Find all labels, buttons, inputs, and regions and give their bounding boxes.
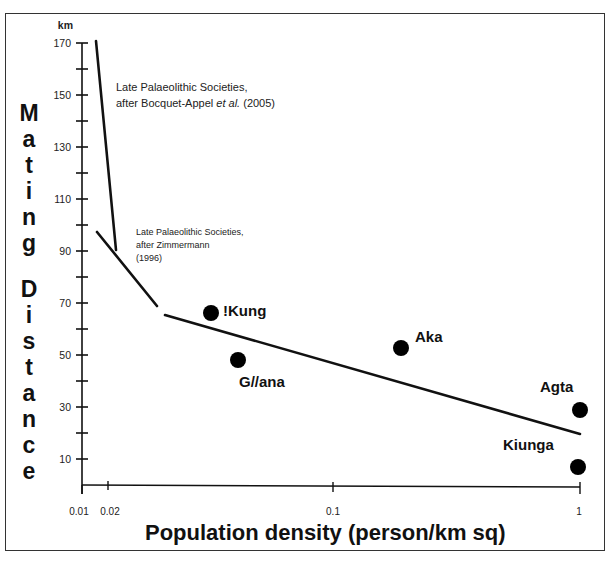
- point-agta: [572, 402, 588, 418]
- point-kung: [203, 305, 219, 321]
- point-kiunga: [570, 459, 586, 475]
- y-title-letter: D: [21, 276, 38, 302]
- x-tick-0.1: 0.1: [326, 506, 340, 517]
- y-title-letter: t: [25, 354, 33, 380]
- y-tick-50: 50: [59, 349, 71, 361]
- label-kung: !Kung: [223, 302, 266, 319]
- y-title-letter: t: [25, 152, 33, 178]
- x-tick-1: 1: [576, 506, 582, 517]
- y-tick-110: 110: [54, 193, 71, 205]
- label-kiunga: Kiunga: [503, 436, 554, 453]
- x-tick-labels: 0.01 0.02 0.1 1: [69, 506, 582, 517]
- y-title-letter: n: [22, 406, 36, 432]
- label-gana: G//ana: [239, 373, 286, 390]
- x-axis-title: Population density (person/km sq): [145, 520, 506, 546]
- point-aka: [393, 340, 409, 356]
- x-tick-0.01: 0.01: [69, 506, 89, 517]
- annotation-zimmermann-line1: Late Palaeolithic Societies,: [136, 227, 244, 237]
- annotation-bocquet-etal: et al.: [216, 97, 240, 109]
- y-title-letter: g: [22, 230, 36, 256]
- annotation-bocquet-line1: Late Palaeolithic Societies,: [116, 81, 247, 93]
- y-tick-90: 90: [59, 245, 71, 257]
- y-title-letter: i: [26, 302, 32, 328]
- annotation-bocquet-line2: after Bocquet-Appel et al. (2005): [116, 97, 275, 109]
- y-axis: [76, 43, 88, 494]
- y-unit-label: km: [58, 19, 73, 31]
- x-axis: [82, 481, 580, 494]
- annotation-zimmermann-line3: (1996): [136, 253, 162, 263]
- bocquet-appel-line: [96, 41, 116, 250]
- y-tick-130: 130: [53, 141, 71, 153]
- annotation-zimmermann: Late Palaeolithic Societies, after Zimme…: [136, 227, 244, 263]
- y-tick-150: 150: [53, 89, 71, 101]
- label-aka: Aka: [415, 328, 443, 345]
- annotation-bocquet: Late Palaeolithic Societies, after Bocqu…: [116, 81, 275, 109]
- annotation-zimmermann-line2: after Zimmermann: [136, 240, 210, 250]
- y-title-letter: a: [23, 380, 36, 406]
- annotation-bocquet-year: (2005): [240, 97, 275, 109]
- annotation-bocquet-author: after Bocquet-Appel: [116, 97, 216, 109]
- trend-line: [165, 315, 580, 434]
- y-tick-70: 70: [59, 297, 71, 309]
- y-title-letter: i: [26, 178, 32, 204]
- y-tick-10: 10: [59, 453, 71, 465]
- x-tick-0.02: 0.02: [100, 506, 120, 517]
- y-title-letter: c: [23, 432, 36, 458]
- y-tick-170: 170: [53, 37, 71, 49]
- chart-canvas: 170 150 130 110 90 70 50 30 10 km 0.01 0…: [0, 0, 611, 563]
- label-agta: Agta: [540, 378, 574, 395]
- y-title-letter: s: [23, 328, 36, 354]
- y-tick-30: 30: [59, 401, 71, 413]
- y-tick-labels: 170 150 130 110 90 70 50 30 10 km: [53, 19, 73, 465]
- point-gana: [230, 352, 246, 368]
- y-axis-title: M a t i n g D i s t a n c e: [14, 100, 44, 484]
- y-title-letter: n: [22, 204, 36, 230]
- y-title-letter: e: [23, 458, 36, 484]
- y-title-letter: a: [23, 126, 36, 152]
- y-title-letter: M: [19, 100, 38, 126]
